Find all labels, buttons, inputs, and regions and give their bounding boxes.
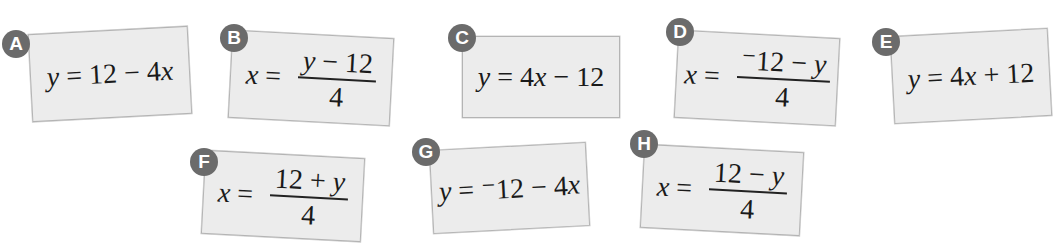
numerator: 12 + y bbox=[270, 163, 350, 200]
numerator-variable: y bbox=[813, 48, 827, 80]
equation: x = y − 12 4 bbox=[244, 42, 378, 114]
numerator-variable: y bbox=[771, 159, 785, 191]
equation: y = 4 x − 12 bbox=[478, 61, 604, 93]
rhs-tail: + 12 bbox=[976, 57, 1035, 92]
equals-sign: = bbox=[668, 171, 699, 205]
numerator: ⁻12 − y bbox=[737, 45, 832, 83]
numerator: 12 − y bbox=[709, 157, 789, 194]
equation: y = 4 x + 12 bbox=[907, 57, 1035, 96]
equation-card-d[interactable]: x = ⁻12 − y 4 bbox=[674, 30, 840, 126]
equals-sign: = bbox=[696, 59, 727, 93]
badge-d: D bbox=[666, 18, 694, 46]
rhs-constant: ⁻12 − 4 bbox=[480, 168, 568, 205]
badge-c: C bbox=[448, 24, 476, 52]
rhs-variable: x bbox=[534, 61, 546, 93]
denominator: 4 bbox=[774, 80, 790, 112]
equation: y = 12 − 4 x bbox=[46, 55, 174, 94]
equals-sign: = bbox=[229, 177, 260, 211]
equation-card-a[interactable]: y = 12 − 4 x bbox=[28, 26, 192, 122]
badge-h: H bbox=[630, 130, 658, 158]
equation: x = ⁻12 − y 4 bbox=[683, 42, 831, 114]
equation-card-e[interactable]: y = 4 x + 12 bbox=[890, 28, 1052, 124]
denominator: 4 bbox=[300, 198, 316, 230]
lhs-variable: y bbox=[478, 61, 490, 93]
equation-card-f[interactable]: x = 12 + y 4 bbox=[201, 150, 365, 242]
fraction: 12 + y 4 bbox=[268, 163, 350, 232]
badge-g: G bbox=[412, 138, 440, 166]
equals-sign: = bbox=[490, 61, 520, 93]
numerator-head: 12 + bbox=[274, 162, 333, 196]
numerator: y − 12 bbox=[298, 45, 378, 82]
numerator-head: 12 − bbox=[713, 156, 772, 190]
badge-a: A bbox=[2, 30, 30, 58]
rhs-tail: − 12 bbox=[546, 61, 604, 93]
equation-card-b[interactable]: x = y − 12 4 bbox=[228, 30, 394, 126]
equation-card-c[interactable]: y = 4 x − 12 bbox=[462, 36, 620, 118]
equation: x = 12 − y 4 bbox=[655, 154, 789, 226]
badge-b: B bbox=[220, 24, 248, 52]
denominator: 4 bbox=[328, 80, 344, 112]
equation-card-g[interactable]: y = ⁻12 − 4 x bbox=[429, 142, 590, 234]
fraction: y − 12 4 bbox=[296, 45, 378, 114]
rhs-variable: x bbox=[567, 168, 581, 201]
rhs-coefficient: 4 bbox=[520, 61, 534, 93]
badge-f: F bbox=[190, 148, 218, 176]
equals-sign: = bbox=[257, 59, 288, 93]
fraction: 12 − y 4 bbox=[707, 157, 789, 226]
numerator-tail: − 12 bbox=[315, 45, 374, 79]
numerator-head: ⁻12 − bbox=[741, 44, 815, 79]
equation-card-h[interactable]: x = 12 − y 4 bbox=[640, 144, 804, 236]
rhs-constant: 12 − 4 bbox=[88, 55, 161, 91]
equals-sign: = bbox=[58, 59, 89, 93]
equation: x = 12 + y 4 bbox=[216, 160, 350, 232]
fraction: ⁻12 − y 4 bbox=[735, 45, 831, 115]
equals-sign: = bbox=[919, 61, 950, 95]
badge-e: E bbox=[872, 28, 900, 56]
equation: y = ⁻12 − 4 x bbox=[438, 168, 581, 208]
denominator: 4 bbox=[739, 192, 755, 224]
equals-sign: = bbox=[451, 174, 482, 208]
numerator-variable: y bbox=[332, 165, 346, 197]
rhs-variable: x bbox=[160, 55, 174, 88]
